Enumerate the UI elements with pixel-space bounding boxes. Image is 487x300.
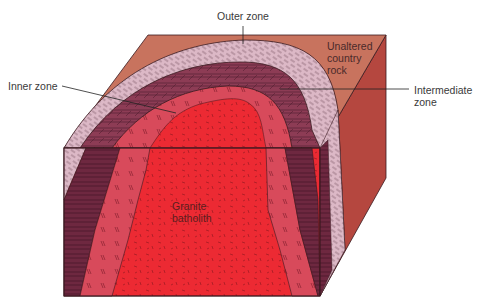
- block-diagram: [0, 0, 487, 300]
- label-line: batholith: [172, 212, 212, 224]
- label-line: Intermediate: [414, 84, 472, 96]
- label-line: rock: [327, 64, 373, 76]
- label-inner-zone: Inner zone: [8, 80, 58, 92]
- label-line: Unaltered: [327, 40, 373, 52]
- label-line: zone: [414, 96, 472, 108]
- label-line: Granite: [172, 200, 212, 212]
- label-intermediate-zone: Intermediate zone: [414, 84, 472, 108]
- label-outer-zone: Outer zone: [217, 10, 269, 22]
- label-line: country: [327, 52, 373, 64]
- label-granite-batholith: Granite batholith: [172, 200, 212, 224]
- label-unaltered-country-rock: Unaltered country rock: [327, 40, 373, 76]
